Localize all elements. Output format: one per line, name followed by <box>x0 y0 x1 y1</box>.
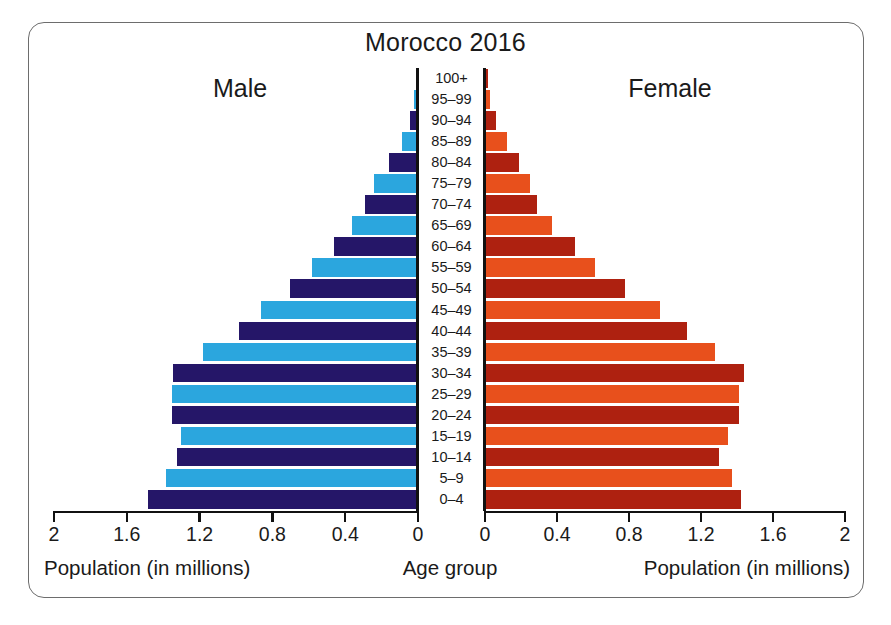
axis-tick <box>700 511 702 522</box>
axis-tick <box>628 511 630 522</box>
bar-row <box>53 300 418 321</box>
axis-tick <box>53 511 55 522</box>
bar-row <box>53 152 418 173</box>
bar-row <box>53 68 418 89</box>
age-group-label: 55–59 <box>418 257 485 278</box>
axis-tick <box>844 511 846 522</box>
bar-row <box>485 363 845 384</box>
pyramid-bar <box>485 132 507 151</box>
axis-tick-label: 2 <box>49 523 60 546</box>
bar-row <box>53 131 418 152</box>
axis-tick-label: 1.2 <box>186 523 213 546</box>
pyramid-bar <box>173 364 418 383</box>
pyramid-bar <box>485 406 739 425</box>
age-group-label: 85–89 <box>418 131 485 152</box>
pyramid-bar <box>203 343 418 362</box>
axis-tick-label: 2 <box>840 523 851 546</box>
bar-row <box>485 68 845 89</box>
bar-row <box>485 405 845 426</box>
axis-tick <box>484 511 486 522</box>
age-group-label: 45–49 <box>418 300 485 321</box>
axis-tick-label: 0.8 <box>615 523 642 546</box>
age-group-label: 30–34 <box>418 363 485 384</box>
bar-row <box>53 236 418 257</box>
age-group-label: 40–44 <box>418 321 485 342</box>
age-group-axis: 100+95–9990–9485–8980–8475–7970–7465–696… <box>418 68 485 510</box>
pyramid-bar <box>261 301 418 320</box>
bar-row <box>53 110 418 131</box>
axis-tick-label: 1.6 <box>113 523 140 546</box>
bar-row <box>53 257 418 278</box>
age-group-label: 75–79 <box>418 173 485 194</box>
axis-tick-label: 0 <box>480 523 491 546</box>
bar-row <box>53 89 418 110</box>
bar-row <box>485 236 845 257</box>
age-group-label: 15–19 <box>418 426 485 447</box>
bar-row <box>53 215 418 236</box>
age-group-label: 20–24 <box>418 405 485 426</box>
axis-tick <box>344 511 346 522</box>
bar-row <box>485 215 845 236</box>
age-group-label: 60–64 <box>418 236 485 257</box>
bar-row <box>485 342 845 363</box>
axis-tick-label: 0.4 <box>332 523 359 546</box>
bar-row <box>53 405 418 426</box>
axis-tick <box>417 511 419 522</box>
axis-tick-label: 0.8 <box>259 523 286 546</box>
axis-tick <box>556 511 558 522</box>
bar-row <box>485 194 845 215</box>
pyramid-bar <box>485 258 595 277</box>
pyramid-bar <box>485 153 519 172</box>
pyramid-bar <box>334 237 418 256</box>
bar-row <box>53 173 418 194</box>
bar-row <box>485 384 845 405</box>
axis-tick <box>126 511 128 522</box>
pyramid-bar <box>485 111 496 130</box>
axis-tick-label: 0.4 <box>543 523 570 546</box>
age-group-label: 90–94 <box>418 110 485 131</box>
pyramid-bar <box>485 469 732 488</box>
pyramid-bar <box>172 385 418 404</box>
pyramid-bar <box>352 216 418 235</box>
bar-row <box>485 131 845 152</box>
bar-row <box>485 152 845 173</box>
pyramid-bar <box>485 195 537 214</box>
axis-tick <box>198 511 200 522</box>
pyramid-bar <box>485 427 728 446</box>
pyramid-bar <box>485 385 739 404</box>
pyramid-bar <box>485 448 719 467</box>
center-axis-title: Age group <box>395 556 505 580</box>
bar-row <box>485 489 845 510</box>
age-group-label: 35–39 <box>418 342 485 363</box>
axis-tick-label: 1.2 <box>687 523 714 546</box>
pyramid-bar <box>485 174 530 193</box>
female-zero-axis-line <box>483 68 486 511</box>
pyramid-bar <box>312 258 418 277</box>
bar-row <box>485 89 845 110</box>
bar-row <box>53 489 418 510</box>
chart-title: Morocco 2016 <box>0 28 891 57</box>
pyramid-bar <box>485 216 552 235</box>
pyramid-bar <box>485 237 575 256</box>
bar-row <box>53 194 418 215</box>
male-bars-panel <box>53 68 418 510</box>
bar-row <box>53 426 418 447</box>
left-axis-title: Population (in millions) <box>44 556 414 580</box>
bar-row <box>485 468 845 489</box>
bar-row <box>485 447 845 468</box>
bar-row <box>53 468 418 489</box>
pyramid-bar <box>239 322 418 341</box>
bar-row <box>485 321 845 342</box>
age-group-label: 0–4 <box>418 489 485 510</box>
age-group-label: 100+ <box>418 68 485 89</box>
axis-tick-label: 1.6 <box>759 523 786 546</box>
age-group-label: 80–84 <box>418 152 485 173</box>
pyramid-bar <box>485 279 625 298</box>
right-axis-title: Population (in millions) <box>490 556 850 580</box>
bar-row <box>53 321 418 342</box>
bar-row <box>485 257 845 278</box>
axis-tick <box>772 511 774 522</box>
age-group-label: 50–54 <box>418 278 485 299</box>
age-group-label: 95–99 <box>418 89 485 110</box>
pyramid-bar <box>172 406 418 425</box>
